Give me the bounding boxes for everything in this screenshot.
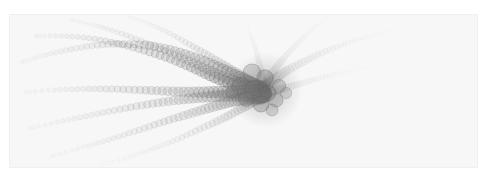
figure-container: A pale grey radial structure resembling … [0, 0, 491, 180]
plot-canvas [0, 0, 491, 180]
